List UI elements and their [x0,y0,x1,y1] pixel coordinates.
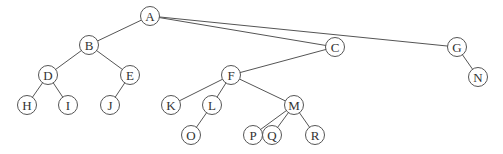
node-h: H [18,96,37,115]
node-label: B [85,38,94,53]
edge-c-f [231,47,335,75]
node-p: P [244,126,263,145]
node-j: J [101,96,120,115]
node-label: G [452,40,461,55]
node-label: N [473,70,483,85]
node-label: M [288,98,300,113]
node-label: Q [267,128,277,143]
node-label: R [311,128,320,143]
node-l: L [203,96,222,115]
node-label: D [43,68,52,83]
node-d: D [39,66,58,85]
node-k: K [162,96,181,115]
node-b: B [80,36,99,55]
tree-diagram: ABCGDEFNHIJKLMOPQR [0,0,503,154]
node-r: R [306,126,325,145]
node-label: I [66,98,70,113]
tree-nodes: ABCGDEFNHIJKLMOPQR [18,7,488,145]
node-o: O [182,126,201,145]
node-g: G [448,38,467,57]
node-f: F [222,66,241,85]
node-label: O [186,128,195,143]
node-m: M [285,96,304,115]
node-label: E [126,68,134,83]
node-label: A [145,9,155,24]
node-label: L [208,98,216,113]
node-c: C [326,38,345,57]
node-e: E [121,66,140,85]
tree-edges [27,16,478,135]
edge-a-b [89,16,150,45]
node-label: H [22,98,31,113]
edge-f-m [231,75,294,105]
edge-a-g [150,16,457,47]
node-a: A [141,7,160,26]
node-label: F [227,68,234,83]
node-q: Q [263,126,282,145]
node-n: N [469,68,488,87]
node-label: K [166,98,176,113]
node-i: I [59,96,78,115]
node-label: C [331,40,340,55]
node-label: J [107,98,112,113]
node-label: P [249,128,256,143]
